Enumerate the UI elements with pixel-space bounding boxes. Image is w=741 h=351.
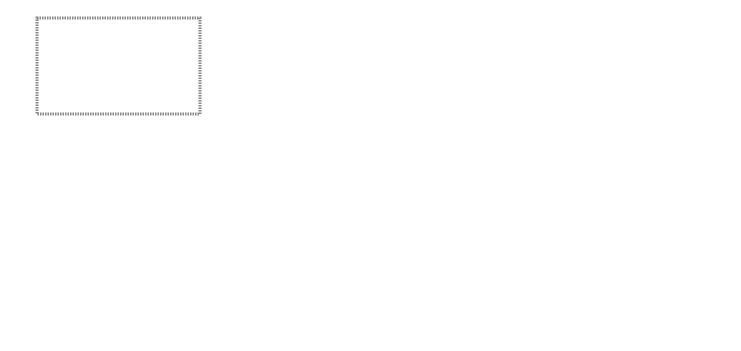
outer-system-border [37, 18, 200, 114]
system-box [37, 18, 200, 114]
system-container-frame [38, 19, 201, 115]
outer-frame-final [37, 18, 200, 114]
architecture-diagram [0, 0, 741, 351]
outer-group-dashed [37, 18, 200, 114]
group-box [38, 19, 201, 115]
system-outline [37, 18, 200, 114]
outer-frame-visible [37, 18, 201, 114]
planes-container [37, 18, 200, 114]
outer-frame [37, 18, 200, 114]
outer-frame-real [38, 19, 201, 115]
outer-group-rect [37, 18, 200, 114]
outer-rectangle [37, 18, 200, 114]
system-frame-border [37, 18, 200, 114]
outer-system-frame [37, 18, 200, 114]
outer-dashed-rectangle [37, 18, 200, 114]
system-frame [37, 18, 200, 114]
outer-border [38, 19, 201, 115]
platform-group-outline [37, 18, 200, 114]
platform-group [37, 18, 201, 115]
outer-group-border [37, 18, 200, 114]
container-frame [37, 19, 200, 115]
system-container [37, 18, 200, 114]
outer-dashed-frame [37, 18, 200, 114]
outer-group-frame [37, 18, 200, 114]
group-outline [37, 18, 200, 114]
platform-group-frame [37, 18, 200, 114]
system-boundary [37, 18, 200, 114]
